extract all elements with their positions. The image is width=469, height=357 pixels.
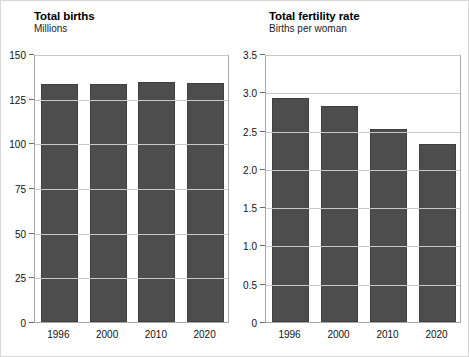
y-tick-mark: [260, 131, 265, 132]
chart-header-left: Total births Millions: [34, 10, 95, 35]
y-tick-label: 2.0: [236, 164, 257, 175]
y-tick-mark: [260, 322, 265, 323]
y-tick-label: 75: [1, 184, 26, 195]
gridline: [35, 144, 228, 145]
x-tick-label: 1996: [47, 329, 69, 340]
x-tick-label: 2020: [425, 329, 447, 340]
x-tick-label: 2000: [327, 329, 349, 340]
bar: [41, 84, 78, 322]
y-tick-mark: [260, 54, 265, 55]
chart-header-right: Total fertility rate Births per woman: [269, 10, 359, 35]
gridline: [266, 93, 460, 94]
x-tick-label: 1996: [278, 329, 300, 340]
gridline: [266, 246, 460, 247]
chart-panel-total-births: Total births Millions 0255075100125150 1…: [1, 1, 236, 357]
y-tick-label: 25: [1, 273, 26, 284]
y-tick-label: 0.5: [236, 279, 257, 290]
y-tick-label: 3.5: [236, 50, 257, 61]
y-tick-mark: [29, 188, 34, 189]
gridline: [266, 170, 460, 171]
y-tick-mark: [260, 92, 265, 93]
y-tick-label: 125: [1, 94, 26, 105]
y-tick-mark: [260, 169, 265, 170]
bar: [370, 129, 407, 322]
y-tick-label: 0: [236, 318, 257, 329]
y-tick-label: 3.0: [236, 88, 257, 99]
gridline: [35, 100, 228, 101]
y-tick-mark: [29, 322, 34, 323]
y-tick-mark: [260, 207, 265, 208]
chart-title-right: Total fertility rate: [269, 10, 359, 22]
y-tick-label: 1.5: [236, 203, 257, 214]
x-tick-label: 2020: [194, 329, 216, 340]
y-tick-mark: [29, 233, 34, 234]
x-tick-label: 2000: [96, 329, 118, 340]
bar: [321, 106, 358, 322]
bar: [187, 83, 224, 322]
y-tick-mark: [260, 245, 265, 246]
gridline: [35, 55, 228, 56]
y-tick-label: 0: [1, 318, 26, 329]
gridline: [35, 189, 228, 190]
y-tick-label: 150: [1, 50, 26, 61]
gridline: [266, 55, 460, 56]
y-tick-mark: [29, 54, 34, 55]
figure-canvas: Total births Millions 0255075100125150 1…: [0, 0, 469, 357]
chart-title-left: Total births: [34, 10, 95, 22]
plot-area-right: [265, 55, 461, 323]
y-tick-mark: [29, 277, 34, 278]
x-tick-label: 2010: [376, 329, 398, 340]
y-tick-label: 100: [1, 139, 26, 150]
bar-series-right: [266, 56, 460, 322]
chart-subtitle-right: Births per woman: [269, 24, 359, 35]
y-tick-mark: [29, 143, 34, 144]
gridline: [266, 208, 460, 209]
bar: [138, 82, 175, 322]
y-tick-label: 2.5: [236, 126, 257, 137]
y-tick-mark: [29, 99, 34, 100]
gridline: [35, 234, 228, 235]
y-tick-label: 1.0: [236, 241, 257, 252]
plot-area-left: [34, 55, 229, 323]
y-tick-mark: [260, 284, 265, 285]
bar: [90, 84, 127, 322]
x-tick-label: 2010: [145, 329, 167, 340]
gridline: [35, 278, 228, 279]
chart-subtitle-left: Millions: [34, 24, 95, 35]
y-tick-label: 50: [1, 228, 26, 239]
gridline: [266, 132, 460, 133]
chart-panel-total-fertility-rate: Total fertility rate Births per woman 00…: [236, 1, 469, 357]
gridline: [266, 285, 460, 286]
